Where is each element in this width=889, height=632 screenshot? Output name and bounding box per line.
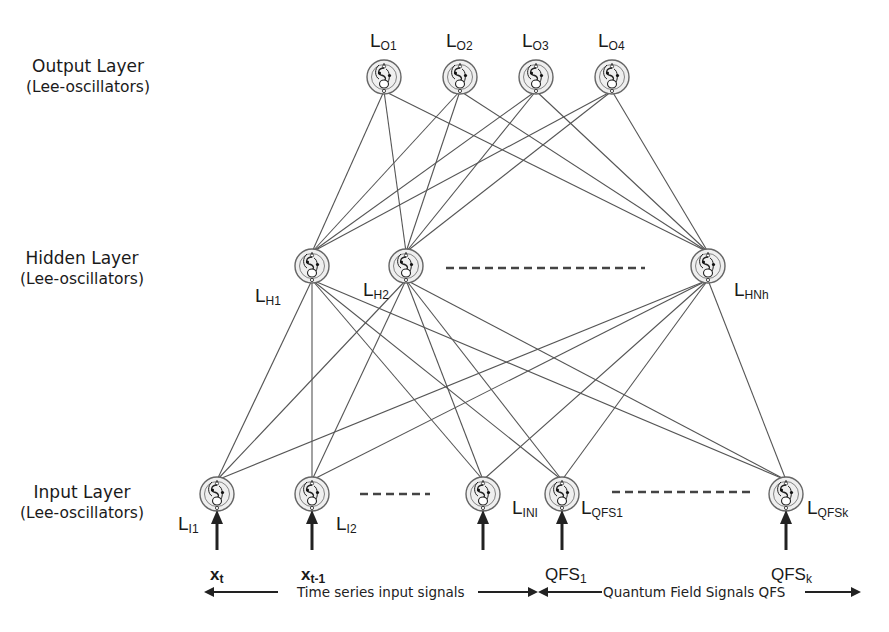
lee-oscillator-icon-i1 bbox=[200, 477, 234, 511]
node-label-o3: LO3 bbox=[522, 31, 549, 52]
hidden-input-connections bbox=[217, 280, 786, 480]
lee-oscillator-icon-qfs1 bbox=[545, 477, 579, 511]
output-hidden-connections bbox=[312, 91, 708, 252]
signal-label-qfsk: QFSk bbox=[771, 566, 812, 585]
connection-line bbox=[483, 280, 708, 480]
connection-line bbox=[406, 91, 612, 252]
node-label-o1: LO1 bbox=[370, 31, 397, 52]
connection-line bbox=[406, 91, 536, 252]
signal-label-xt: xt bbox=[210, 566, 223, 585]
connection-line bbox=[312, 280, 562, 480]
lee-oscillator-icon-o2 bbox=[443, 60, 477, 94]
node-label-o2: LO2 bbox=[446, 31, 473, 52]
connection-line bbox=[536, 91, 708, 252]
lee-oscillator-icon-i2 bbox=[295, 477, 329, 511]
quantum-field-caption: Quantum Field Signals QFS bbox=[602, 584, 786, 600]
oscillator-nodes bbox=[200, 60, 803, 511]
connection-line bbox=[406, 280, 562, 480]
lee-oscillator-icon-ini bbox=[466, 477, 500, 511]
connection-line bbox=[312, 91, 612, 252]
hidden-layer-title: Hidden Layer bbox=[12, 248, 152, 269]
signal-label-xt-1: xt-1 bbox=[301, 566, 325, 585]
hidden-layer-label: Hidden Layer (Lee-oscillators) bbox=[12, 248, 152, 290]
node-label-i2: LI2 bbox=[336, 514, 357, 535]
lee-oscillator-icon-h2 bbox=[389, 249, 423, 283]
node-label-ini: LINI bbox=[512, 498, 538, 519]
hidden-layer-subtitle: (Lee-oscillators) bbox=[12, 269, 152, 290]
connection-line bbox=[312, 280, 708, 480]
time-series-caption: Time series input signals bbox=[296, 584, 466, 600]
node-label-h2: LH2 bbox=[363, 280, 389, 301]
node-label-i1: LI1 bbox=[178, 514, 199, 535]
node-label-hnh: LHNh bbox=[734, 280, 769, 301]
lee-oscillator-icon-o4 bbox=[595, 60, 629, 94]
input-layer-title: Input Layer bbox=[12, 482, 152, 503]
node-label-qfsk: LQFSk bbox=[807, 498, 848, 519]
input-arrows bbox=[211, 510, 792, 550]
connection-line bbox=[312, 91, 384, 252]
output-layer-subtitle: (Lee-oscillators) bbox=[18, 77, 158, 98]
lee-oscillator-icon-qfsk bbox=[769, 477, 803, 511]
lee-oscillator-icon-hnh bbox=[691, 249, 725, 283]
connection-line bbox=[384, 91, 406, 252]
connection-line bbox=[460, 91, 708, 252]
signal-label-qfs1: QFS1 bbox=[545, 566, 587, 585]
lee-oscillator-icon-h1 bbox=[295, 249, 329, 283]
node-label-o4: LO4 bbox=[598, 31, 625, 52]
lee-oscillator-icon-o1 bbox=[367, 60, 401, 94]
connection-line bbox=[217, 280, 312, 480]
connection-line bbox=[312, 280, 786, 480]
node-label-h1: LH1 bbox=[255, 286, 281, 307]
connection-line bbox=[708, 280, 786, 480]
output-layer-title: Output Layer bbox=[18, 56, 158, 77]
node-label-qfs1: LQFS1 bbox=[581, 498, 623, 519]
connection-line bbox=[312, 280, 406, 480]
output-layer-label: Output Layer (Lee-oscillators) bbox=[18, 56, 158, 98]
input-layer-label: Input Layer (Lee-oscillators) bbox=[12, 482, 152, 524]
connection-line bbox=[312, 91, 460, 252]
connection-line bbox=[406, 280, 483, 480]
input-layer-subtitle: (Lee-oscillators) bbox=[12, 503, 152, 524]
connection-line bbox=[312, 280, 483, 480]
lee-oscillator-icon-o3 bbox=[519, 60, 553, 94]
connection-line bbox=[312, 91, 536, 252]
